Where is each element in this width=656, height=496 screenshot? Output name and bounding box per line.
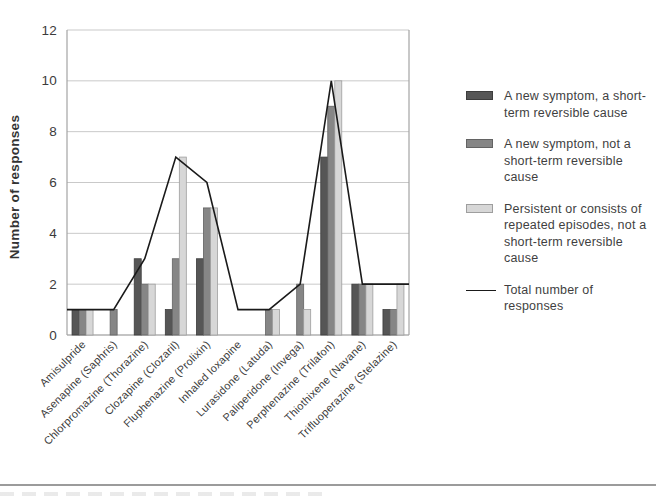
y-tick-label: 10 bbox=[41, 73, 57, 88]
bar bbox=[304, 310, 311, 335]
y-tick-label: 6 bbox=[49, 175, 57, 190]
bar bbox=[321, 157, 328, 335]
cropped-page-text bbox=[0, 492, 330, 496]
legend-label: Total number of responses bbox=[504, 282, 652, 315]
legend-item: A new symptom, a short-term reversible c… bbox=[466, 88, 652, 121]
legend-label: Persistent or consists of repeated episo… bbox=[504, 201, 652, 267]
bar bbox=[266, 310, 273, 335]
bar bbox=[179, 157, 186, 335]
bar bbox=[148, 284, 155, 335]
bar bbox=[72, 310, 79, 335]
bar bbox=[383, 310, 390, 335]
legend-swatch-total-line bbox=[466, 290, 496, 291]
bar bbox=[335, 81, 342, 335]
bar bbox=[172, 259, 179, 335]
y-axis-title: Number of responses bbox=[7, 37, 29, 337]
legend-swatch-dark-bar bbox=[466, 91, 493, 100]
legend-label: A new symptom, a short-term reversible c… bbox=[504, 88, 652, 121]
legend: A new symptom, a short-term reversible c… bbox=[466, 88, 652, 315]
bar bbox=[390, 310, 397, 335]
bar bbox=[397, 284, 404, 335]
legend-item: Total number of responses bbox=[466, 282, 652, 315]
bar bbox=[352, 284, 359, 335]
y-tick-label: 4 bbox=[49, 226, 57, 241]
bar bbox=[110, 310, 117, 335]
bar bbox=[297, 284, 304, 335]
bar bbox=[79, 310, 86, 335]
bar bbox=[86, 310, 93, 335]
bar bbox=[359, 284, 366, 335]
total-line bbox=[67, 81, 409, 310]
bar bbox=[165, 310, 172, 335]
bar bbox=[328, 106, 335, 335]
bar bbox=[366, 284, 373, 335]
bar bbox=[196, 259, 203, 335]
y-tick-label: 12 bbox=[41, 23, 57, 38]
bar-line-chart: 024681012AmisulprideAsenapine (Saphris)C… bbox=[0, 0, 460, 480]
bar bbox=[141, 284, 148, 335]
legend-item: Persistent or consists of repeated episo… bbox=[466, 201, 652, 267]
legend-swatch-medium-bar bbox=[466, 139, 493, 148]
y-tick-label: 8 bbox=[49, 124, 57, 139]
page-divider-rule bbox=[0, 484, 656, 486]
legend-item: A new symptom, not a short-term reversib… bbox=[466, 136, 652, 186]
bar bbox=[210, 208, 217, 335]
legend-swatch-light-bar bbox=[466, 204, 493, 213]
y-tick-label: 2 bbox=[49, 277, 57, 292]
figure: Number of responses 024681012Amisulpride… bbox=[0, 0, 656, 496]
bar bbox=[273, 310, 280, 335]
y-tick-label: 0 bbox=[49, 328, 57, 343]
legend-label: A new symptom, not a short-term reversib… bbox=[504, 136, 652, 186]
bar bbox=[203, 208, 210, 335]
